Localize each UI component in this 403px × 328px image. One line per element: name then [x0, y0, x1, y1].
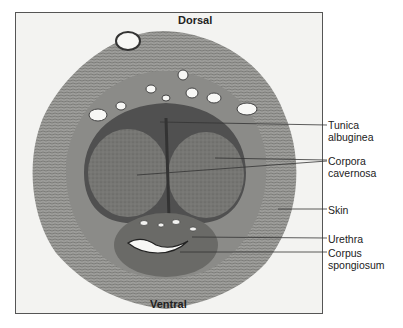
cross-section-micrograph — [16, 13, 322, 313]
label-corpora-cavernosa: Corpora cavernosa — [328, 155, 376, 179]
orientation-ventral: Ventral — [150, 298, 187, 310]
corpus-cavernosum-left — [88, 129, 168, 217]
label-tunica-albuginea: Tunica albuginea — [328, 119, 374, 143]
orientation-dorsal: Dorsal — [178, 14, 212, 26]
micrograph-frame — [15, 12, 323, 314]
label-corpus-spongiosum: Corpus spongiosum — [328, 247, 385, 271]
corpus-cavernosum-right — [168, 132, 244, 218]
label-urethra: Urethra — [328, 233, 363, 245]
label-skin: Skin — [328, 204, 348, 216]
